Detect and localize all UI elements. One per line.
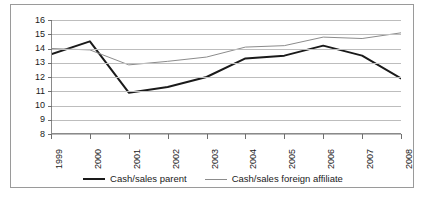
- y-tick-label-9: 9: [17, 115, 45, 124]
- chart-legend: Cash/sales parent Cash/sales foreign aff…: [11, 171, 415, 187]
- x-tick-label-1999: 1999: [55, 149, 64, 169]
- y-tick-label-16: 16: [17, 16, 45, 25]
- x-tick-label-2001: 2001: [133, 149, 142, 169]
- y-tick-mark-15: [48, 34, 52, 35]
- gridline-10: [51, 106, 401, 107]
- x-tick-label-2003: 2003: [211, 149, 220, 169]
- gridline-14: [51, 49, 401, 50]
- x-axis-labels: 1999200020012002200320042005200620072008: [51, 139, 401, 171]
- gridline-15: [51, 34, 401, 35]
- y-tick-mark-9: [48, 120, 52, 121]
- gridline-12: [51, 77, 401, 78]
- y-tick-label-15: 15: [17, 30, 45, 39]
- gridline-16: [51, 20, 401, 21]
- legend-item-parent: Cash/sales parent: [83, 174, 187, 184]
- y-tick-mark-16: [48, 20, 52, 21]
- legend-line-icon-parent: [83, 178, 105, 180]
- y-tick-label-13: 13: [17, 58, 45, 67]
- chart-figure: 1615141312111098 19992000200120022003200…: [10, 4, 414, 188]
- x-tick-label-2006: 2006: [327, 149, 336, 169]
- x-tick-mark-2008: [401, 134, 402, 139]
- legend-item-foreign-affiliate: Cash/sales foreign affiliate: [205, 174, 343, 184]
- gridline-11: [51, 91, 401, 92]
- legend-label-foreign-affiliate: Cash/sales foreign affiliate: [232, 174, 343, 184]
- plot-area: [51, 20, 401, 134]
- x-tick-label-2008: 2008: [405, 149, 414, 169]
- legend-label-parent: Cash/sales parent: [110, 174, 187, 184]
- y-tick-label-8: 8: [17, 130, 45, 139]
- y-tick-mark-13: [48, 63, 52, 64]
- y-axis-labels: 1615141312111098: [11, 20, 45, 134]
- y-tick-label-12: 12: [17, 73, 45, 82]
- x-tick-label-2002: 2002: [172, 149, 181, 169]
- gridline-13: [51, 63, 401, 64]
- x-tick-label-2005: 2005: [288, 149, 297, 169]
- y-tick-label-10: 10: [17, 101, 45, 110]
- x-tick-label-2004: 2004: [249, 149, 258, 169]
- y-tick-mark-12: [48, 77, 52, 78]
- x-tick-label-2007: 2007: [366, 149, 375, 169]
- y-tick-label-14: 14: [17, 44, 45, 53]
- y-tick-mark-10: [48, 106, 52, 107]
- y-tick-label-11: 11: [17, 87, 45, 96]
- x-tick-label-2000: 2000: [94, 149, 103, 169]
- legend-line-icon-foreign-affiliate: [205, 179, 227, 180]
- y-tick-mark-14: [48, 49, 52, 50]
- y-tick-mark-11: [48, 91, 52, 92]
- gridline-9: [51, 120, 401, 121]
